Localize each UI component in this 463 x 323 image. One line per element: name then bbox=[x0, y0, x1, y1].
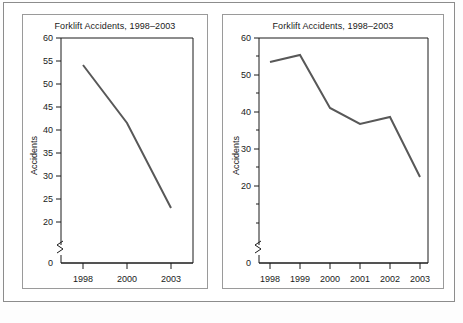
chart-left-ylabel-20: 20 bbox=[43, 217, 53, 227]
chart-panel-left: Forklift Accidents, 1998–2003 Accidents bbox=[22, 14, 208, 289]
chart-left-data-line bbox=[83, 65, 171, 208]
chart-right-plot-border bbox=[259, 38, 428, 263]
chart-right-xlabel-2002: 2002 bbox=[380, 274, 400, 284]
chart-right-axis-break bbox=[255, 241, 261, 253]
chart-left-ylabel-25: 25 bbox=[43, 194, 53, 204]
chart-right-ylabel-0: 0 bbox=[246, 258, 251, 268]
chart-right-ylabel-50: 50 bbox=[241, 70, 251, 80]
chart-left-plot-border bbox=[61, 38, 193, 263]
chart-left-ylabel-35: 35 bbox=[43, 148, 53, 158]
chart-right-xlabel-1999: 1999 bbox=[290, 274, 310, 284]
figure-caption bbox=[4, 311, 459, 323]
chart-left-ylabel-60: 60 bbox=[43, 33, 53, 43]
chart-left-ylabel-55: 55 bbox=[43, 56, 53, 66]
chart-left-ylabel-0: 0 bbox=[48, 258, 53, 268]
chart-left-xlabel-2003: 2003 bbox=[161, 274, 181, 284]
chart-left-ylabel-40: 40 bbox=[43, 125, 53, 135]
chart-right-svg: 60 50 40 30 20 0 1998 1999 2000 2001 200… bbox=[223, 15, 445, 290]
chart-panel-right: Forklift Accidents, 1998–2003 Accidents bbox=[222, 14, 444, 289]
figure: Forklift Accidents, 1998–2003 Accidents bbox=[0, 0, 463, 323]
chart-right-ylabel-30: 30 bbox=[241, 144, 251, 154]
chart-left-inner: Forklift Accidents, 1998–2003 Accidents bbox=[23, 15, 207, 288]
chart-right-xlabel-2000: 2000 bbox=[320, 274, 340, 284]
chart-left-axis-break bbox=[57, 241, 63, 253]
chart-right-xlabel-2001: 2001 bbox=[350, 274, 370, 284]
chart-right-ylabel-60: 60 bbox=[241, 33, 251, 43]
chart-left-ylabel-50: 50 bbox=[43, 79, 53, 89]
chart-right-xlabel-2003: 2003 bbox=[410, 274, 430, 284]
chart-left-ylabel-45: 45 bbox=[43, 102, 53, 112]
chart-right-data-line bbox=[270, 55, 420, 177]
chart-left-svg: 60 55 50 45 40 35 30 25 20 0 1998 2000 2… bbox=[23, 15, 209, 290]
chart-right-ylabel-40: 40 bbox=[241, 107, 251, 117]
chart-left-xlabel-1998: 1998 bbox=[73, 274, 93, 284]
chart-right-inner: Forklift Accidents, 1998–2003 Accidents bbox=[223, 15, 443, 288]
chart-left-xlabel-2000: 2000 bbox=[117, 274, 137, 284]
chart-right-ylabel-20: 20 bbox=[241, 181, 251, 191]
chart-right-xlabel-1998: 1998 bbox=[260, 274, 280, 284]
chart-left-ylabel-30: 30 bbox=[43, 171, 53, 181]
